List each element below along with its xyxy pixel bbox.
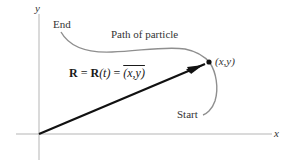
equation-equals-2: =	[110, 66, 123, 80]
path-label: Path of particle	[111, 29, 178, 40]
end-label: End	[53, 19, 71, 30]
equation-func-arg: (t)	[99, 66, 110, 80]
position-vector-diagram: y x End Path of particle (x,y) Start R =…	[0, 0, 293, 166]
equation-rhs-vector: (x,y)	[123, 66, 145, 80]
start-label: Start	[177, 109, 198, 120]
point-label: (x,y)	[215, 56, 235, 67]
y-axis-label: y	[35, 3, 40, 14]
diagram-canvas	[0, 0, 293, 166]
particle-point	[206, 59, 211, 64]
equation-func-name: R	[90, 66, 99, 80]
equation-lhs: R	[69, 66, 78, 80]
position-equation: R = R(t) = (x,y)	[69, 67, 145, 79]
equation-equals-1: =	[78, 66, 91, 80]
x-axis-label: x	[274, 128, 279, 139]
vector-arrowhead-icon-main	[187, 65, 203, 74]
